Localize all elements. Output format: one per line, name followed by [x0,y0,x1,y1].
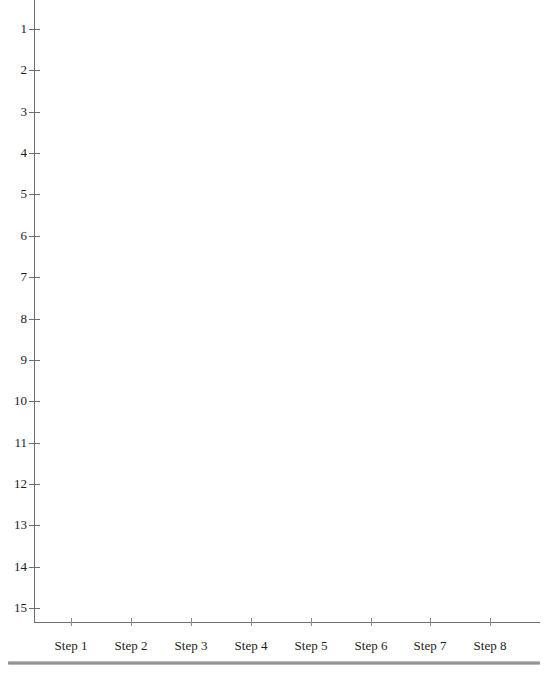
y-tick-7 [29,277,40,278]
x-axis-line [34,622,540,623]
y-tick-12 [29,484,40,485]
y-tick-label: 15 [0,601,27,614]
y-tick-11 [29,443,40,444]
y-tick-label: 10 [0,394,27,407]
y-tick-label: 8 [0,312,27,325]
y-tick-8 [29,319,40,320]
y-tick-10 [29,401,40,402]
x-tick-7 [430,618,431,626]
y-tick-15 [29,608,40,609]
y-tick-13 [29,525,40,526]
x-tick-1 [71,618,72,626]
y-tick-5 [29,194,40,195]
x-tick-3 [191,618,192,626]
x-tick-2 [131,618,132,626]
y-tick-label: 13 [0,518,27,531]
y-tick-1 [29,29,40,30]
y-tick-3 [29,112,40,113]
y-tick-label: 11 [0,436,27,449]
y-tick-label: 6 [0,229,27,242]
x-tick-label: Step 2 [101,639,161,652]
y-tick-9 [29,360,40,361]
y-tick-14 [29,567,40,568]
footer-horizontal-rule [8,661,540,665]
y-tick-label: 5 [0,187,27,200]
x-tick-label: Step 4 [221,639,281,652]
x-tick-label: Step 7 [400,639,460,652]
y-axis-line [34,0,35,622]
x-tick-5 [311,618,312,626]
x-tick-label: Step 8 [460,639,520,652]
x-tick-4 [251,618,252,626]
x-tick-8 [490,618,491,626]
y-tick-label: 14 [0,560,27,573]
x-tick-label: Step 6 [341,639,401,652]
x-tick-6 [371,618,372,626]
y-tick-4 [29,153,40,154]
y-tick-label: 2 [0,63,27,76]
plot-area [35,0,540,622]
x-tick-label: Step 3 [161,639,221,652]
y-tick-6 [29,236,40,237]
y-tick-label: 9 [0,353,27,366]
x-tick-label: Step 5 [281,639,341,652]
y-tick-2 [29,70,40,71]
x-tick-label: Step 1 [41,639,101,652]
y-tick-label: 1 [0,22,27,35]
y-tick-label: 4 [0,146,27,159]
chart-container: 123456789101112131415 Step 1Step 2Step 3… [0,0,548,678]
y-tick-label: 3 [0,105,27,118]
y-tick-label: 7 [0,270,27,283]
y-tick-label: 12 [0,477,27,490]
